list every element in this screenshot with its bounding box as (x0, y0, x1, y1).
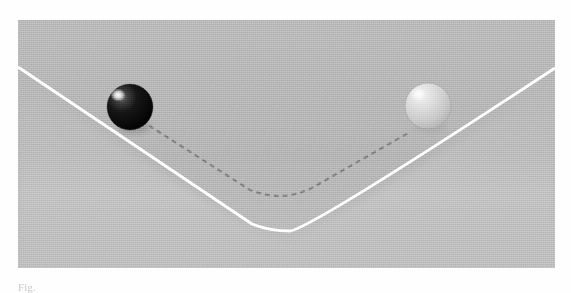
dark-sphere-highlight (111, 89, 126, 102)
figure-graphic (18, 20, 555, 268)
figure-caption: Fig. (18, 281, 558, 293)
figure-panel (18, 20, 555, 268)
dark-sphere (107, 84, 153, 130)
page-root: Fig. (0, 0, 571, 293)
light-sphere-highlight (410, 87, 426, 101)
light-sphere (405, 83, 451, 129)
figure-caption-text: Fig. (18, 281, 558, 293)
